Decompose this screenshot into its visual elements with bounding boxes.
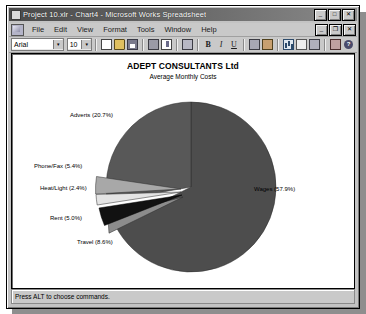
toolbar: Arial ▾ 10 ▾ B I U <box>9 37 357 53</box>
help-button[interactable]: ? <box>343 39 354 51</box>
slice-label-phonefax: Phone/Fax (5.4%) <box>34 163 82 169</box>
toolbar-separator <box>142 39 144 51</box>
toolbar-separator <box>324 39 326 51</box>
pie-plot-area: Adverts (20.7%) Phone/Fax (5.4%) Heat/Li… <box>12 82 354 288</box>
slice-label-rent: Rent (5.0%) <box>50 215 82 221</box>
menu-item-tools[interactable]: Tools <box>132 25 160 34</box>
menu-bar: File Edit View Format Tools Window Help … <box>9 23 357 37</box>
spreadsheet-button[interactable] <box>296 39 307 51</box>
menu-item-file[interactable]: File <box>27 25 49 34</box>
document-client-area[interactable]: ADEPT CONSULTANTS Ltd Average Monthly Co… <box>11 53 355 289</box>
maximize-button[interactable]: □ <box>328 9 341 21</box>
mdi-window-controls: _ ❐ ✕ <box>315 24 357 36</box>
toolbar-separator <box>197 39 199 51</box>
font-size-combo[interactable]: 10 ▾ <box>67 38 93 51</box>
copy-button[interactable] <box>249 39 260 51</box>
paste-icon <box>262 39 273 50</box>
window-controls: _ □ ✕ <box>314 9 355 21</box>
title-bar[interactable]: Project 10.xlr - Chart4 - Microsoft Work… <box>9 8 357 21</box>
help-icon: ? <box>344 40 353 49</box>
font-name-combo[interactable]: Arial ▾ <box>11 38 64 51</box>
menu-item-format[interactable]: Format <box>98 25 132 34</box>
menu-item-help[interactable]: Help <box>196 25 221 34</box>
desktop-background: Project 10.xlr - Chart4 - Microsoft Work… <box>0 0 366 314</box>
new-button[interactable] <box>101 39 112 51</box>
chevron-down-icon[interactable]: ▾ <box>81 40 91 49</box>
chart-title: ADEPT CONSULTANTS Ltd <box>12 61 354 71</box>
cut-button[interactable] <box>182 39 193 51</box>
minimize-button[interactable]: _ <box>314 9 327 21</box>
print-button[interactable] <box>148 39 159 51</box>
status-message: Press ALT to choose commands. <box>12 293 110 300</box>
paste-button[interactable] <box>262 39 273 51</box>
toolbar-separator <box>277 39 279 51</box>
status-bar: Press ALT to choose commands. <box>11 289 355 304</box>
font-name-value: Arial <box>12 41 30 48</box>
print-preview-button[interactable] <box>161 39 172 51</box>
mdi-minimize-button[interactable]: _ <box>315 24 328 36</box>
window-title: Project 10.xlr - Chart4 - Microsoft Work… <box>23 10 206 19</box>
print-preview-icon <box>161 39 172 50</box>
print-icon <box>148 39 159 50</box>
chart-button[interactable] <box>283 39 294 51</box>
mdi-restore-button[interactable]: ❐ <box>329 24 342 36</box>
application-window: Project 10.xlr - Chart4 - Microsoft Work… <box>6 5 360 309</box>
open-icon <box>114 39 125 50</box>
toolbar-separator <box>95 39 97 51</box>
cut-icon <box>182 39 193 50</box>
chart-subtitle: Average Monthly Costs <box>12 73 354 80</box>
chart-icon <box>283 39 294 50</box>
copy-icon <box>249 39 260 50</box>
slice-label-travel: Travel (8.6%) <box>77 239 113 245</box>
font-size-value: 10 <box>68 41 80 48</box>
pie-chart: ADEPT CONSULTANTS Ltd Average Monthly Co… <box>12 54 354 288</box>
zoom-button[interactable] <box>330 39 341 51</box>
toolbar-separator <box>176 39 178 51</box>
open-button[interactable] <box>114 39 125 51</box>
chevron-down-icon[interactable]: ▾ <box>53 40 63 49</box>
slice-label-heatlight: Heat/Light (2.4%) <box>40 185 87 191</box>
tools-button[interactable] <box>309 39 320 51</box>
app-icon <box>11 10 20 19</box>
zoom-icon <box>330 39 341 50</box>
save-button[interactable] <box>127 39 138 51</box>
document-icon[interactable] <box>11 24 24 36</box>
toolbar-separator <box>243 39 245 51</box>
slice-label-wages: Wages (57.9%) <box>254 186 295 192</box>
menu-item-window[interactable]: Window <box>159 25 196 34</box>
menu-item-view[interactable]: View <box>72 25 98 34</box>
mdi-close-button[interactable]: ✕ <box>343 24 356 36</box>
menu-item-edit[interactable]: Edit <box>49 25 72 34</box>
underline-button[interactable]: U <box>229 39 240 51</box>
tools-icon <box>309 39 320 50</box>
close-button[interactable]: ✕ <box>342 9 355 21</box>
new-icon <box>101 39 112 50</box>
slice-label-adverts: Adverts (20.7%) <box>70 112 113 118</box>
italic-button[interactable]: I <box>216 39 227 51</box>
save-icon <box>127 39 138 50</box>
bold-button[interactable]: B <box>203 39 214 51</box>
spreadsheet-icon <box>296 39 307 50</box>
